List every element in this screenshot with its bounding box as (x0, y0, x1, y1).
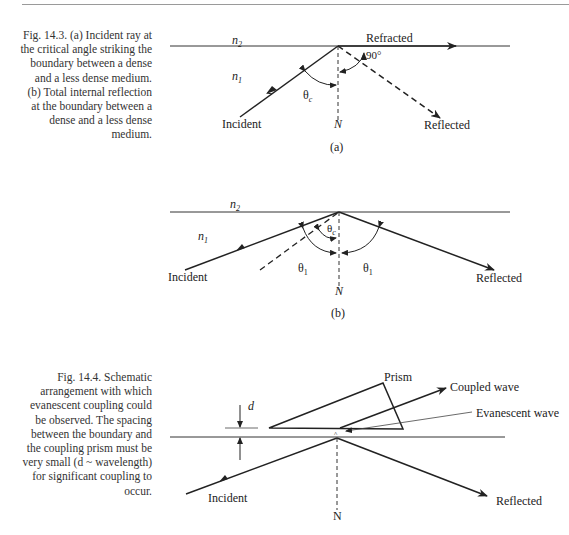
incident-ray (186, 438, 337, 494)
label-theta-c: θc (303, 88, 313, 104)
reflected-ray (337, 438, 487, 496)
label-incident: Incident (208, 491, 248, 505)
label-normal: N (333, 509, 342, 523)
figure-14-3-panel-b: n2 n1 θc θ1 θ1 Incident N Reflected (b) (168, 197, 522, 320)
evanescent-wave-pointer (346, 412, 472, 431)
label-theta1-right: θ1 (363, 261, 373, 277)
incident-arrowhead (219, 475, 228, 482)
label-normal: N (333, 117, 343, 131)
label-theta1-left: θ1 (298, 261, 308, 277)
label-spacing-d: d (248, 399, 255, 413)
figure-14-3-panel-a: n2 n1 Refracted 90° θc Incident N Reflec… (170, 31, 510, 154)
label-refracted: Refracted (366, 31, 413, 45)
label-reflected: Reflected (496, 494, 542, 508)
label-incident: Incident (222, 117, 262, 131)
label-evanescent-wave: Evanescent wave (476, 406, 559, 420)
label-incident: Incident (168, 270, 208, 284)
label-n2: n2 (230, 197, 240, 213)
label-90-degrees: 90° (366, 49, 381, 61)
label-reflected: Reflected (476, 271, 522, 285)
label-n1: n1 (198, 229, 208, 245)
prism-shape (269, 383, 403, 429)
incident-ray (185, 212, 339, 270)
panel-label-a: (a) (330, 140, 343, 154)
figures-canvas: n2 n1 Refracted 90° θc Incident N Reflec… (0, 0, 569, 535)
label-theta-c: θc (327, 222, 336, 237)
incident-ray (240, 46, 338, 117)
label-prism: Prism (384, 370, 413, 384)
reflection-angle-arc (342, 227, 379, 253)
figure-14-4-diagram: ^ Prism Coupled wave Evanescent wave d I… (170, 370, 559, 523)
reflected-ray (338, 46, 440, 118)
label-reflected: Reflected (424, 118, 470, 132)
right-angle-arc (340, 53, 364, 72)
label-coupled-wave: Coupled wave (450, 380, 519, 394)
incident-arrowhead (266, 86, 277, 94)
incident-arrowhead (236, 244, 245, 251)
panel-label-b: (b) (331, 306, 345, 320)
label-n1: n1 (232, 69, 242, 85)
critical-angle-arc (305, 71, 336, 85)
label-normal: N (334, 284, 344, 298)
label-n2: n2 (232, 33, 242, 49)
